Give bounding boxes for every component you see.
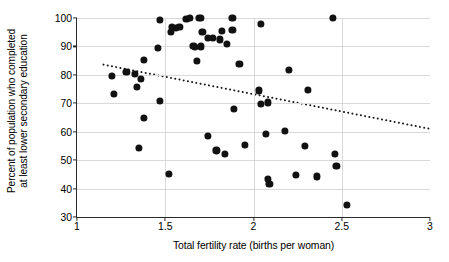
x-tick-label: 2.5	[335, 221, 349, 232]
data-point	[140, 56, 147, 63]
y-tick-label: 90	[44, 41, 72, 52]
y-tick-mark	[73, 160, 77, 161]
y-axis-title: Percent of population who completed at l…	[0, 0, 36, 222]
data-point	[204, 132, 211, 139]
data-point	[156, 17, 163, 24]
y-axis-title-line-1: Percent of population who completed	[6, 29, 18, 193]
data-point	[176, 24, 183, 31]
data-point	[218, 27, 225, 34]
data-point	[135, 144, 142, 151]
y-tick-mark	[73, 131, 77, 132]
y-tick-mark	[73, 188, 77, 189]
plot-inner: 3040506070809010011.522.53	[77, 18, 430, 217]
gridline-vertical	[254, 18, 255, 217]
data-point	[329, 14, 336, 21]
data-point	[264, 99, 271, 106]
data-point	[222, 150, 229, 157]
data-point	[241, 141, 248, 148]
data-point	[236, 60, 243, 67]
data-point	[197, 43, 204, 50]
y-tick-mark	[73, 17, 77, 18]
data-point	[313, 173, 320, 180]
y-tick-label: 100	[44, 13, 72, 24]
data-point	[257, 20, 264, 27]
data-point	[262, 130, 269, 137]
y-tick-mark	[73, 46, 77, 47]
y-axis-title-line-2: at least lower secondary education	[18, 34, 30, 187]
x-tick-label: 1.5	[158, 221, 172, 232]
data-point	[133, 83, 140, 90]
y-tick-label: 70	[44, 98, 72, 109]
data-point	[193, 57, 200, 64]
plot-area: 3040506070809010011.522.53	[76, 18, 430, 218]
y-tick-label: 60	[44, 126, 72, 137]
data-point	[137, 76, 144, 83]
data-point	[230, 105, 237, 112]
data-point	[282, 128, 289, 135]
gridline-vertical	[165, 18, 166, 217]
data-point	[333, 162, 340, 169]
y-tick-label: 30	[44, 212, 72, 223]
y-tick-label: 40	[44, 183, 72, 194]
data-point	[216, 36, 223, 43]
data-point	[109, 73, 116, 80]
y-tick-label: 50	[44, 155, 72, 166]
data-point	[331, 150, 338, 157]
y-tick-mark	[73, 74, 77, 75]
data-point	[285, 67, 292, 74]
x-tick-label: 3	[427, 221, 433, 232]
data-point	[292, 171, 299, 178]
data-point	[186, 15, 193, 22]
y-tick-mark	[73, 103, 77, 104]
data-point	[229, 14, 236, 21]
y-tick-label: 80	[44, 69, 72, 80]
data-point	[155, 44, 162, 51]
gridline-vertical	[342, 18, 343, 217]
data-point	[301, 142, 308, 149]
x-axis-title: Total fertility rate (births per woman)	[76, 240, 431, 251]
data-point	[213, 147, 220, 154]
data-point	[110, 90, 117, 97]
data-point	[165, 170, 172, 177]
data-point	[197, 15, 204, 22]
data-point	[305, 86, 312, 93]
data-point	[266, 180, 273, 187]
scatter-chart: Percent of population who completed at l…	[0, 0, 449, 262]
data-point	[140, 114, 147, 121]
data-point	[343, 201, 350, 208]
data-point	[229, 26, 236, 33]
x-tick-label: 2	[251, 221, 257, 232]
x-tick-label: 1	[74, 221, 80, 232]
data-point	[255, 87, 262, 94]
